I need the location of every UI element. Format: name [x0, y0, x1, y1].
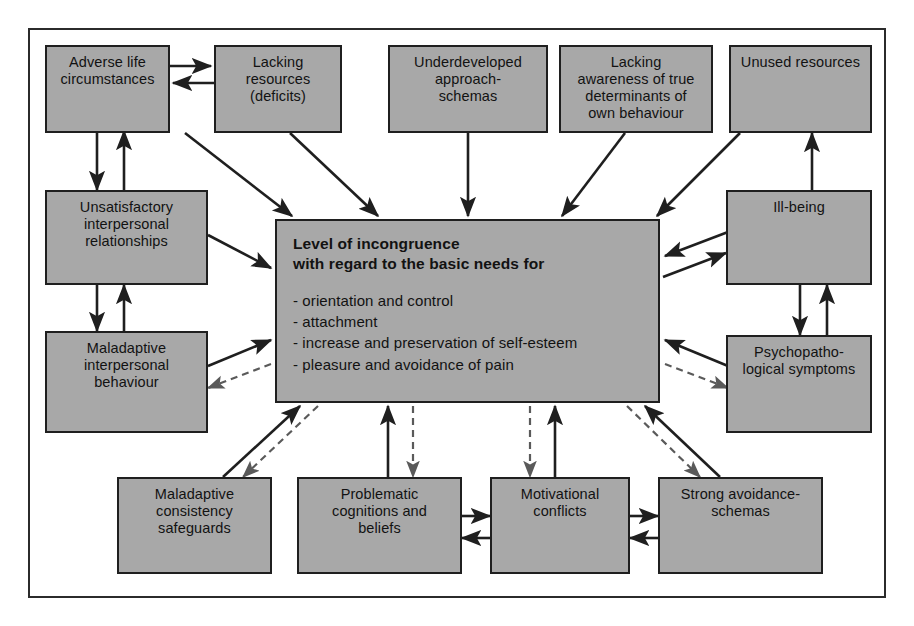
- node-adverse-life-circumstances-label: Adverse life circumstances: [57, 54, 159, 88]
- diagram-canvas: Adverse life circumstances Lacking resou…: [0, 0, 914, 626]
- node-maladaptive-interpersonal-behaviour[interactable]: Maladaptive interpersonal behaviour: [45, 331, 208, 433]
- node-level-of-incongruence[interactable]: Level of incongruence with regard to the…: [275, 219, 660, 403]
- node-lacking-awareness[interactable]: Lacking awareness of true determinants o…: [559, 45, 713, 133]
- node-lacking-resources[interactable]: Lacking resources (deficits): [214, 45, 342, 133]
- node-ill-being-label: Ill-being: [769, 199, 829, 216]
- node-unsatisfactory-relationships[interactable]: Unsatisfactory interpersonal relationshi…: [45, 190, 208, 285]
- node-maladaptive-consistency-safeguards-label: Maladaptive consistency safeguards: [151, 486, 238, 537]
- node-level-of-incongruence-heading: Level of incongruence with regard to the…: [293, 234, 658, 274]
- node-strong-avoidance-schemas-label: Strong avoidance- schemas: [677, 486, 804, 520]
- node-maladaptive-consistency-safeguards[interactable]: Maladaptive consistency safeguards: [117, 477, 272, 574]
- node-adverse-life-circumstances[interactable]: Adverse life circumstances: [45, 45, 170, 133]
- node-level-of-incongruence-needs: - orientation and control - attachment -…: [293, 290, 658, 375]
- node-problematic-cognitions-beliefs-label: Problematic cognitions and beliefs: [328, 486, 431, 537]
- node-unsatisfactory-relationships-label: Unsatisfactory interpersonal relationshi…: [76, 199, 177, 250]
- node-underdeveloped-approach-schemas[interactable]: Underdeveloped approach- schemas: [388, 45, 548, 133]
- node-psychopathological-symptoms[interactable]: Psychopatho- logical symptoms: [726, 335, 872, 433]
- node-maladaptive-interpersonal-behaviour-label: Maladaptive interpersonal behaviour: [80, 340, 173, 391]
- node-psychopathological-symptoms-label: Psychopatho- logical symptoms: [739, 344, 860, 378]
- node-motivational-conflicts[interactable]: Motivational conflicts: [490, 477, 630, 574]
- node-unused-resources[interactable]: Unused resources: [729, 45, 872, 133]
- node-motivational-conflicts-label: Motivational conflicts: [517, 486, 604, 520]
- node-ill-being[interactable]: Ill-being: [726, 190, 872, 285]
- node-lacking-resources-label: Lacking resources (deficits): [216, 54, 340, 105]
- node-underdeveloped-approach-schemas-label: Underdeveloped approach- schemas: [410, 54, 526, 105]
- node-strong-avoidance-schemas[interactable]: Strong avoidance- schemas: [658, 477, 823, 574]
- node-lacking-awareness-label: Lacking awareness of true determinants o…: [574, 54, 699, 122]
- node-problematic-cognitions-beliefs[interactable]: Problematic cognitions and beliefs: [297, 477, 462, 574]
- node-unused-resources-label: Unused resources: [737, 54, 864, 71]
